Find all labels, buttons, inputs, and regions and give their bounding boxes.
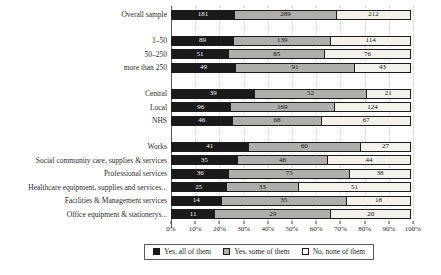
segment-value: 35 [201, 157, 208, 164]
bar-segment-all: 89 [171, 36, 234, 46]
segment-value: 48 [279, 157, 286, 164]
bar-track: 395221 [171, 89, 413, 99]
axis-tick [243, 221, 244, 224]
chart-row: Local96169124 [0, 101, 441, 115]
segment-value: 44 [366, 157, 373, 164]
chart-row: Central395221 [0, 87, 441, 101]
legend-label-some: Yes, some of them [234, 248, 290, 256]
bar-segment-some: 60 [248, 142, 361, 152]
bar-segment-none: 21 [366, 89, 411, 99]
segment-value: 11 [190, 211, 197, 218]
bar-segment-some: 91 [235, 63, 355, 73]
bar-track: 518576 [171, 49, 413, 59]
bar-segment-none: 18 [346, 196, 411, 206]
bar-segment-none: 67 [321, 116, 411, 126]
chart-row: more than 250499143 [0, 61, 441, 75]
bar-track: 416027 [171, 142, 413, 152]
bar-track: 143518 [171, 196, 413, 206]
bar-segment-some: 289 [234, 10, 337, 20]
category-label: Professional services [0, 170, 171, 178]
axis-tick-label: 80% [358, 225, 371, 233]
bar-segment-all: 25 [171, 182, 227, 192]
category-label: Social community care, supplies & servic… [0, 157, 171, 165]
segment-value: 43 [379, 64, 386, 71]
axis-tick [388, 221, 389, 224]
segment-value: 36 [197, 170, 204, 177]
category-label: Overall sample [0, 11, 171, 19]
bar-segment-none: 76 [324, 49, 411, 59]
segment-value: 289 [280, 11, 291, 18]
segment-value: 96 [197, 104, 204, 111]
bar-segment-none: 51 [298, 182, 411, 192]
legend-label-all: Yes, all of them [164, 248, 211, 256]
segment-value: 60 [301, 143, 308, 150]
segment-value: 38 [377, 170, 384, 177]
segment-value: 51 [197, 51, 204, 58]
bar-segment-some: 52 [254, 89, 366, 99]
segment-value: 75 [286, 170, 293, 177]
bar-segment-none: 38 [349, 169, 411, 179]
category-label: Healthcare equipment, supplies and servi… [0, 184, 171, 192]
axis-tick [219, 221, 220, 224]
category-label: more than 250 [0, 64, 171, 72]
axis-tick-label: 60% [310, 225, 323, 233]
chart-row: Healthcare equipment, supplies and servi… [0, 181, 441, 195]
bar-segment-some: 33 [226, 182, 299, 192]
category-label: Central [0, 90, 171, 98]
bar-track: 466867 [171, 116, 413, 126]
legend-swatch-none-icon [302, 248, 309, 255]
bar-segment-all: 96 [171, 102, 231, 112]
segment-value: 52 [307, 90, 314, 97]
category-label: Office equipment & stationerys... [0, 211, 171, 219]
segment-value: 41 [206, 143, 213, 150]
chart-row: 1–5089139114 [0, 34, 441, 48]
segment-value: 18 [375, 197, 382, 204]
segment-value: 20 [367, 211, 374, 218]
axis-tick [413, 221, 414, 224]
axis-tick-label: 100% [405, 225, 421, 233]
bar-segment-none: 114 [330, 36, 411, 46]
bar-segment-all: 36 [171, 169, 229, 179]
category-label: 1–50 [0, 37, 171, 45]
chart-row: Facilities & Management services143518 [0, 194, 441, 208]
bar-segment-some: 35 [221, 196, 347, 206]
stacked-bar-chart: Overall sample1812892121–508913911450–25… [0, 0, 441, 275]
axis-tick-label: 0% [166, 225, 175, 233]
bar-segment-some: 48 [237, 155, 328, 165]
bar-segment-some: 85 [228, 49, 325, 59]
segment-value: 29 [269, 211, 276, 218]
chart-row: 50–250518576 [0, 48, 441, 62]
chart-row: Professional services367538 [0, 167, 441, 181]
bar-track: 354844 [171, 155, 413, 165]
chart-rows: Overall sample1812892121–508913911450–25… [0, 8, 441, 221]
bar-segment-some: 68 [232, 116, 323, 126]
axis-tick [195, 221, 196, 224]
axis-tick-label: 30% [237, 225, 250, 233]
chart-row: Overall sample181289212 [0, 8, 441, 22]
bar-segment-some: 169 [230, 102, 335, 112]
chart-row: Social community care, supplies & servic… [0, 154, 441, 168]
legend-swatch-some-icon [223, 248, 230, 255]
bar-segment-none: 44 [327, 155, 411, 165]
segment-value: 91 [291, 64, 298, 71]
segment-value: 85 [273, 51, 280, 58]
axis-tick [171, 221, 172, 224]
axis-tick-label: 90% [382, 225, 395, 233]
bar-track: 89139114 [171, 36, 413, 46]
bar-segment-all: 39 [171, 89, 255, 99]
x-axis: 0%10%20%30%40%50%60%70%80%90%100% [171, 221, 413, 237]
segment-value: 124 [367, 104, 378, 111]
bar-segment-all: 46 [171, 116, 233, 126]
axis-tick [316, 221, 317, 224]
bar-segment-none: 212 [336, 10, 411, 20]
chart-row: Works416027 [0, 140, 441, 154]
segment-value: 212 [368, 11, 379, 18]
segment-value: 27 [382, 143, 389, 150]
segment-value: 89 [199, 37, 206, 44]
bar-track: 96169124 [171, 102, 413, 112]
bar-segment-all: 41 [171, 142, 249, 152]
category-label: Works [0, 143, 171, 151]
bar-segment-none: 124 [334, 102, 411, 112]
bar-segment-none: 43 [354, 63, 411, 73]
plot-section: Overall sample1812892121–508913911450–25… [0, 0, 441, 237]
